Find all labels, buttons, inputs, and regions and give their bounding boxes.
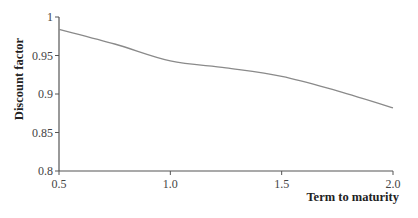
y-tick-label: 1	[47, 10, 53, 24]
y-axis-title: Discount factor	[12, 37, 26, 120]
x-tick-label: 1.5	[274, 177, 289, 191]
y-tick-label: 0.8	[38, 164, 53, 178]
x-tick-label: 1.0	[163, 177, 178, 191]
y-tick-label: 0.9	[38, 87, 53, 101]
x-tick-label: 2.0	[386, 177, 401, 191]
x-axis-title: Term to maturity	[306, 190, 399, 204]
y-ticks: 0.80.850.90.951	[32, 10, 59, 178]
discount-factor-chart: 0.80.850.90.951 0.51.01.52.0 Discount fa…	[0, 0, 418, 218]
y-tick-label: 0.85	[32, 126, 53, 140]
discount-factor-line	[59, 29, 393, 108]
x-ticks: 0.51.01.52.0	[52, 171, 401, 191]
x-tick-label: 0.5	[52, 177, 67, 191]
y-tick-label: 0.95	[32, 49, 53, 63]
